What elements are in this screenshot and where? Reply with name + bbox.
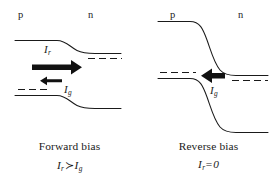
forward-bias-caption: Forward bias Ir≻Ig	[0, 136, 139, 172]
forward-p-region-label: p	[18, 10, 23, 21]
reverse-eq-right-symbol: 0	[213, 158, 219, 170]
forward-caption-title: Forward bias	[39, 140, 101, 152]
forward-conduction-band-edge	[15, 41, 121, 54]
forward-valence-band-edge	[15, 96, 121, 109]
reverse-conduction-band-edge	[158, 22, 268, 76]
forward-recombination-current-label: Ir	[44, 44, 51, 55]
forward-generation-current-arrow	[40, 76, 62, 85]
reverse-bias-caption: Reverse bias Ir=0	[139, 136, 278, 170]
forward-n-region-label: n	[88, 10, 93, 21]
forward-recombination-current-arrow	[32, 60, 82, 74]
forward-ig-subscript: g	[68, 88, 72, 97]
forward-generation-current-label: Ig	[64, 84, 71, 95]
forward-caption-equation: Ir≻Ig	[0, 158, 139, 172]
reverse-eq-left-subscript: r	[202, 163, 205, 172]
pn-junction-band-figure: p n Ir Ig Forward bias Ir≻Ig p n Ig Reve…	[0, 0, 278, 173]
reverse-ig-subscript: g	[214, 89, 218, 98]
forward-eq-left-subscript: r	[61, 164, 64, 173]
reverse-caption-title: Reverse bias	[179, 140, 239, 152]
reverse-n-region-label: n	[238, 10, 243, 21]
reverse-generation-current-label: Ig	[210, 85, 217, 96]
forward-eq-right-subscript: g	[79, 164, 83, 173]
forward-eq-operator: ≻	[64, 159, 75, 171]
reverse-p-region-label: p	[170, 10, 175, 21]
reverse-caption-equation: Ir=0	[139, 158, 278, 170]
reverse-eq-operator: =	[205, 158, 213, 170]
forward-ir-subscript: r	[48, 48, 51, 57]
forward-eq-right-symbol: I	[75, 159, 79, 171]
